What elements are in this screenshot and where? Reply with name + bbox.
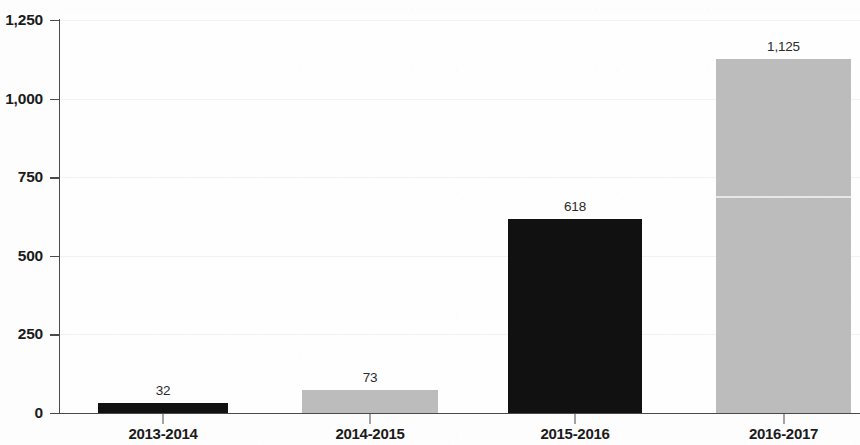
x-axis-label-2014-2015: 2014-2015 xyxy=(335,425,404,442)
bar-value-label: 32 xyxy=(156,383,171,398)
x-axis-tick xyxy=(163,413,164,424)
y-axis-tick xyxy=(50,177,60,178)
y-axis-tick-label: 750 xyxy=(18,168,43,186)
y-axis-tick-label: 0 xyxy=(35,404,43,422)
y-axis-tick xyxy=(50,256,60,257)
bar-scan-seam xyxy=(716,196,851,198)
y-axis-line xyxy=(59,19,60,414)
y-axis-tick-label: 1,250 xyxy=(5,11,43,29)
bar-2016-2017[interactable] xyxy=(716,59,851,413)
gridline xyxy=(60,20,860,21)
x-axis-label-2016-2017: 2016-2017 xyxy=(749,425,818,442)
y-axis-tick xyxy=(50,334,60,335)
bar-2014-2015[interactable] xyxy=(302,390,438,413)
bar-value-label: 618 xyxy=(564,199,586,214)
x-axis-label-2013-2014: 2013-2014 xyxy=(128,425,197,442)
y-axis-tick-label: 250 xyxy=(18,325,43,343)
y-axis-tick xyxy=(50,20,60,21)
bar-value-label: 73 xyxy=(363,370,378,385)
bar-2013-2014[interactable] xyxy=(98,403,228,413)
x-axis-tick xyxy=(575,413,576,424)
x-axis-label-2015-2016: 2015-2016 xyxy=(540,425,609,442)
x-axis-tick xyxy=(783,413,784,424)
y-axis-tick xyxy=(50,99,60,100)
bar-value-label: 1,125 xyxy=(767,39,800,54)
y-axis-tick-label: 500 xyxy=(18,247,43,265)
y-axis-tick-label: 1,000 xyxy=(5,90,43,108)
x-axis-tick xyxy=(370,413,371,424)
bar-2015-2016[interactable] xyxy=(508,219,642,413)
y-axis-tick xyxy=(50,413,60,414)
bar-chart: 02505007501,0001,250 32736181,125 2013-2… xyxy=(0,0,860,445)
